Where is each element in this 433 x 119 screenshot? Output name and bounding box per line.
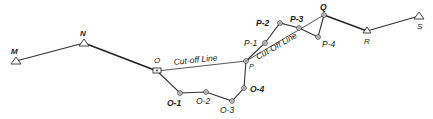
- station-p-icon: [244, 59, 249, 64]
- traverse-o-loop: [157, 61, 246, 101]
- traverse-diagram: M N O O-1 O-2 O-3 O-4 P P-1 P-2 P-3 P-4 …: [0, 0, 433, 119]
- label-q: Q: [320, 2, 327, 12]
- station-o2-icon: [204, 90, 209, 95]
- label-m: M: [11, 47, 18, 56]
- label-r: R: [364, 37, 370, 46]
- traverse-n-o: [84, 43, 157, 71]
- label-o3: O-3: [220, 105, 234, 115]
- station-p1-icon: [263, 41, 268, 46]
- label-p3: P-3: [290, 14, 304, 24]
- station-o-marker-icon: [153, 68, 161, 73]
- label-s: S: [417, 22, 423, 31]
- traverse-q-r: [324, 15, 367, 31]
- station-o1-icon: [178, 91, 183, 96]
- cutoff-label-2: Cut-Off Line: [254, 30, 299, 62]
- station-n-triangle-icon: [79, 39, 89, 46]
- label-o1: O-1: [167, 98, 181, 108]
- station-s-triangle-icon: [414, 12, 424, 19]
- label-p2: P-2: [256, 18, 270, 28]
- station-p3-icon: [297, 26, 302, 31]
- label-o4: O-4: [250, 84, 264, 94]
- traverse-r-s: [367, 16, 419, 31]
- traverse-m-n: [16, 43, 84, 61]
- label-n: N: [80, 29, 86, 38]
- label-o: O: [154, 56, 160, 65]
- station-o3-icon: [230, 99, 235, 104]
- label-p4: P-4: [322, 39, 336, 49]
- label-p1: P-1: [244, 38, 258, 48]
- label-o2: O-2: [196, 96, 210, 106]
- station-p4-icon: [316, 35, 321, 40]
- station-p2-icon: [278, 21, 283, 26]
- diagram-canvas: M N O O-1 O-2 O-3 O-4 P P-1 P-2 P-3 P-4 …: [0, 0, 433, 119]
- station-o4-icon: [242, 86, 247, 91]
- station-q-icon: [322, 13, 327, 18]
- label-p: P: [249, 63, 254, 70]
